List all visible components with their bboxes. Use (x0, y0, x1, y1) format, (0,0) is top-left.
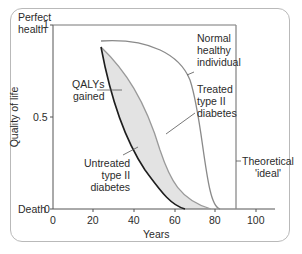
x-axis-title: Years (143, 228, 169, 240)
death-label: Death (18, 203, 46, 215)
normal-healthy-label: Normal healthy individual (197, 32, 241, 68)
x-tick-100: 100 (247, 214, 265, 226)
treated-diabetes-label: Treated type II diabetes (197, 83, 237, 119)
x-tick-40: 40 (128, 214, 140, 226)
x-tick-60: 60 (169, 214, 181, 226)
untreated-diabetes-label: Untreated type II diabetes (84, 157, 130, 193)
y-tick-1: 1 (43, 18, 49, 30)
perfect-health-label: Perfect health (18, 11, 46, 35)
x-tick-0: 0 (50, 214, 56, 226)
theoretical-ideal-label: Theoretical 'ideal' (242, 155, 294, 179)
y-tick-0: 0 (44, 203, 50, 215)
x-tick-20: 20 (87, 214, 99, 226)
y-axis-title: Quality of life (8, 87, 20, 148)
x-tick-80: 80 (209, 214, 221, 226)
y-tick-0.5: 0.5 (33, 111, 48, 123)
qalys-gained-label: QALYs gained (72, 78, 104, 102)
